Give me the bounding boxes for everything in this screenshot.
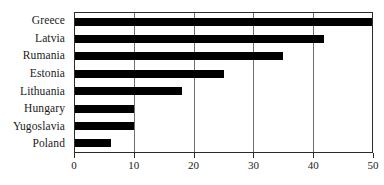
axis-tick-label: 20 bbox=[188, 160, 199, 171]
bar-row bbox=[75, 83, 372, 100]
bar-chart: GreeceLatviaRumaniaEstoniaLithuaniaHunga… bbox=[0, 0, 384, 185]
category-label: Estonia bbox=[30, 68, 65, 80]
bar-row bbox=[75, 13, 372, 30]
category-label-row: Rumania bbox=[0, 47, 70, 65]
axis-tick-mark bbox=[313, 153, 314, 158]
category-label: Yugoslavia bbox=[13, 121, 65, 133]
axis-tick-mark bbox=[253, 153, 254, 158]
bar-row bbox=[75, 48, 372, 65]
bar-row bbox=[75, 30, 372, 47]
bar bbox=[75, 87, 182, 95]
axis-tick-label: 10 bbox=[128, 160, 139, 171]
bar bbox=[75, 18, 372, 26]
category-label-row: Lithuania bbox=[0, 83, 70, 101]
axis-tick-label: 0 bbox=[71, 160, 77, 171]
category-label-row: Latvia bbox=[0, 30, 70, 48]
category-label-row: Yugoslavia bbox=[0, 118, 70, 136]
bar bbox=[75, 70, 224, 78]
category-label: Latvia bbox=[35, 33, 65, 45]
category-label: Greece bbox=[32, 15, 65, 27]
bar bbox=[75, 105, 134, 113]
category-label: Poland bbox=[32, 138, 65, 150]
category-axis: GreeceLatviaRumaniaEstoniaLithuaniaHunga… bbox=[0, 12, 70, 153]
category-label-row: Greece bbox=[0, 12, 70, 30]
category-label: Rumania bbox=[23, 50, 65, 62]
bar bbox=[75, 122, 134, 130]
category-label-row: Hungary bbox=[0, 100, 70, 118]
category-label: Hungary bbox=[24, 103, 65, 115]
bar bbox=[75, 35, 324, 43]
axis-tick-mark bbox=[373, 153, 374, 158]
axis-tick-mark bbox=[134, 153, 135, 158]
bar bbox=[75, 139, 111, 147]
category-label-row: Estonia bbox=[0, 65, 70, 83]
bars-layer bbox=[75, 13, 372, 152]
bar-row bbox=[75, 65, 372, 82]
axis-tick-mark bbox=[74, 153, 75, 158]
plot-area bbox=[74, 12, 373, 153]
bar-row bbox=[75, 117, 372, 134]
category-label: Lithuania bbox=[20, 86, 65, 98]
bar-row bbox=[75, 135, 372, 152]
axis-tick-mark bbox=[194, 153, 195, 158]
bar-row bbox=[75, 100, 372, 117]
axis-tick-label: 50 bbox=[368, 160, 379, 171]
axis-tick-label: 40 bbox=[308, 160, 319, 171]
category-label-row: Poland bbox=[0, 135, 70, 153]
value-axis: 01020304050 bbox=[74, 153, 373, 179]
bar bbox=[75, 52, 283, 60]
axis-tick-label: 30 bbox=[248, 160, 259, 171]
